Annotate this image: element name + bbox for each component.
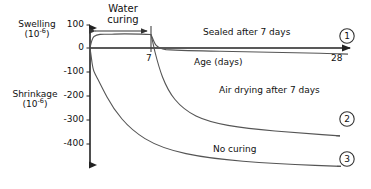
marker-label-3: 3: [340, 154, 354, 164]
x-axis-title: Age (days): [194, 57, 243, 67]
x-tick-label-7: 7: [146, 53, 152, 63]
y-tick-label-0: 0: [60, 42, 84, 52]
x-tick-label-28: 28: [331, 53, 342, 63]
annotation-air-drying-after-7-days: Air drying after 7 days: [219, 85, 320, 95]
y-tick-label-minus-400: -400: [52, 138, 84, 148]
swelling-units: (10-6): [25, 29, 50, 39]
marker-label-2: 2: [340, 114, 354, 124]
y-axis-label-swelling: Swelling (10-6): [8, 19, 66, 39]
y-axis: [87, 25, 91, 165]
swelling-text: Swelling: [18, 19, 56, 29]
swelling-units-base: (10: [25, 29, 40, 39]
shrinkage-units-close: ): [44, 99, 48, 109]
y-axis-label-shrinkage: Shrinkage (10-6): [2, 89, 68, 109]
water-curing-line-2: curing: [107, 14, 138, 25]
swelling-units-close: ): [46, 29, 50, 39]
water-curing-line-1: Water: [108, 3, 138, 14]
marker-label-1: 1: [340, 31, 354, 41]
shrinkage-text: Shrinkage: [12, 89, 57, 99]
annotation-sealed-after-7-days: Sealed after 7 days: [203, 27, 290, 37]
shrinkage-units: (10-6): [23, 99, 48, 109]
y-tick-label-minus-300: -300: [52, 114, 84, 124]
shrinkage-units-base: (10: [23, 99, 38, 109]
annotation-water-curing: Water curing: [96, 3, 150, 25]
chart-figure: 100 0 -100 -200 -300 -400 7 28 Age (days…: [0, 0, 371, 189]
y-tick-label-minus-100: -100: [52, 66, 84, 76]
annotation-no-curing: No curing: [213, 144, 256, 154]
